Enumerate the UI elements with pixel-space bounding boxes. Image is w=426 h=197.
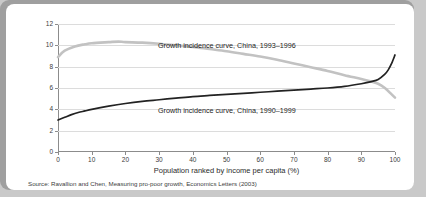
x-tick-mark (58, 152, 59, 155)
x-tick-mark (159, 152, 160, 155)
chart-panel: Annual growth in income per capita (%) 0… (6, 4, 414, 190)
annotation-1993-1996: Growth incidence curve, China, 1993–1996 (158, 42, 296, 49)
x-tick-label: 70 (290, 157, 297, 164)
x-tick-label: 90 (358, 157, 365, 164)
x-tick-label: 50 (223, 157, 230, 164)
annotation-1990-1999: Growth incidence curve, China, 1990–1999 (158, 107, 296, 114)
x-tick-mark (260, 152, 261, 155)
x-tick-mark (294, 152, 295, 155)
x-tick-label: 100 (390, 157, 401, 164)
x-tick-label: 0 (56, 157, 60, 164)
y-tick-label: 12 (46, 21, 53, 28)
x-tick-label: 30 (155, 157, 162, 164)
x-tick-label: 20 (122, 157, 129, 164)
y-tick-label: 10 (46, 42, 53, 49)
x-tick-mark (193, 152, 194, 155)
y-tick-label: 6 (49, 85, 53, 92)
x-axis-title: Population ranked by income per capita (… (58, 167, 395, 175)
source-note: Source: Ravallion and Chen, Measuring pr… (28, 181, 257, 187)
x-tick-label: 60 (257, 157, 264, 164)
x-tick-mark (227, 152, 228, 155)
x-tick-label: 10 (88, 157, 95, 164)
x-tick-mark (361, 152, 362, 155)
x-tick-mark (328, 152, 329, 155)
y-tick-label: 0 (49, 149, 53, 156)
series-line-1993-1996 (58, 42, 395, 98)
x-tick-mark (92, 152, 93, 155)
figure-root: Annual growth in income per capita (%) 0… (0, 0, 426, 197)
y-tick-label: 4 (49, 106, 53, 113)
x-tick-mark (125, 152, 126, 155)
x-tick-label: 80 (324, 157, 331, 164)
x-tick-mark (395, 152, 396, 155)
y-tick-label: 8 (49, 63, 53, 70)
y-tick-label: 2 (49, 127, 53, 134)
x-tick-label: 40 (189, 157, 196, 164)
